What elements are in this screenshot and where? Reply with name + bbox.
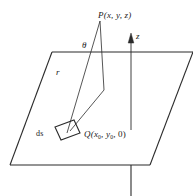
physics-diagram-figure: P(x, y, z) z θ r ds Q(x0, y0, 0) (0, 0, 193, 196)
label-point-q-prefix: Q(x (84, 129, 98, 139)
z-axis-arrowhead-icon (128, 33, 134, 43)
label-surface-element-ds: ds (36, 130, 44, 138)
z-axis (128, 33, 134, 130)
label-axis-z: z (136, 32, 140, 41)
p-to-q-triangle (67, 21, 104, 133)
distance-r-line (67, 21, 100, 133)
label-point-q-mid: , y (101, 129, 110, 139)
plane-right-edge (150, 52, 193, 165)
label-point-q-sub-y: 0 (110, 134, 113, 140)
label-point-q: Q(x0, y0, 0) (84, 130, 126, 139)
vertical-drop-from-p (100, 21, 104, 90)
label-distance-r: r (56, 68, 60, 77)
label-point-q-sub-x: 0 (98, 134, 101, 140)
label-point-q-suffix: , 0) (113, 129, 126, 139)
reference-plane (10, 52, 193, 165)
diagram-canvas (0, 0, 193, 196)
leg-from-drop-to-q (70, 90, 104, 131)
label-point-p: P(x, y, z) (98, 11, 132, 20)
label-angle-theta: θ (82, 41, 87, 50)
plane-left-edge (10, 52, 52, 165)
